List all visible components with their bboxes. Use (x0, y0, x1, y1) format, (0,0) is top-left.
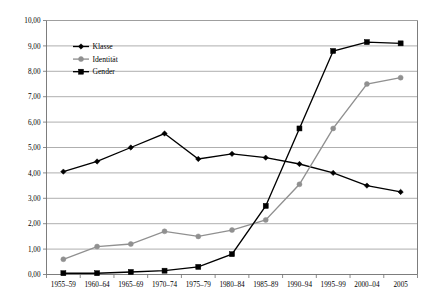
data-point-marker (162, 229, 167, 234)
data-point-marker (230, 228, 235, 233)
data-point-marker (95, 244, 100, 249)
x-axis-tick-label: 1965–69 (118, 281, 144, 289)
data-point-marker (398, 41, 403, 46)
data-point-marker (331, 126, 336, 131)
data-point-marker (263, 217, 268, 222)
data-point-marker (162, 268, 167, 273)
x-axis-tick-label: 1975–79 (186, 281, 212, 289)
chart-legend: KlasseIdentitätGender (73, 42, 119, 76)
legend-label: Gender (93, 67, 116, 76)
x-axis-tick-label: 2005 (393, 281, 408, 289)
data-point-marker (297, 126, 302, 131)
y-axis-tick-label: 1,00 (28, 246, 41, 254)
y-axis-tick-label: 5,00 (28, 144, 41, 152)
legend-marker-icon (79, 69, 84, 74)
x-axis-tick-label: 1980–84 (219, 281, 245, 289)
data-point-marker (196, 264, 201, 269)
data-point-marker (364, 40, 369, 45)
y-axis-tick-label: 7,00 (28, 93, 41, 101)
x-axis-tick-labels: 1955–591960–641965–691970–741975–791980–… (51, 281, 408, 289)
y-axis-tick-label: 2,00 (28, 220, 41, 228)
x-axis-tick-label: 1960–64 (85, 281, 111, 289)
x-axis-tick-label: 1990–94 (287, 281, 313, 289)
data-point-marker (61, 257, 66, 262)
line-chart: 10,009,008,007,006,005,004,003,002,001,0… (0, 0, 430, 305)
x-axis-tick-label: 1995–99 (321, 281, 347, 289)
data-point-marker (398, 75, 403, 80)
chart-canvas: 10,009,008,007,006,005,004,003,002,001,0… (0, 0, 430, 305)
y-axis-tick-label: 10,00 (24, 17, 41, 25)
data-point-marker (263, 203, 268, 208)
data-point-marker (364, 82, 369, 87)
legend-label: Klasse (93, 42, 114, 51)
x-axis-tick-label: 2000–04 (354, 281, 380, 289)
data-point-marker (196, 234, 201, 239)
y-axis-tick-label: 6,00 (28, 119, 41, 127)
y-axis-tick-label: 4,00 (28, 170, 41, 178)
data-point-marker (128, 269, 133, 274)
y-axis-tick-label: 0,00 (28, 271, 41, 279)
x-axis-tick-label: 1955–59 (51, 281, 77, 289)
x-axis-tick-label: 1970–74 (152, 281, 178, 289)
legend-marker-icon (79, 57, 84, 62)
legend-label: Identität (93, 55, 119, 64)
y-axis-tick-label: 9,00 (28, 43, 41, 51)
data-point-marker (297, 182, 302, 187)
data-point-marker (61, 271, 66, 276)
y-axis-tick-label: 3,00 (28, 195, 41, 203)
data-point-marker (331, 48, 336, 53)
data-point-marker (95, 271, 100, 276)
data-point-marker (230, 252, 235, 257)
y-axis-tick-label: 8,00 (28, 68, 41, 76)
x-axis-tick-label: 1985–89 (253, 281, 279, 289)
data-point-marker (128, 242, 133, 247)
